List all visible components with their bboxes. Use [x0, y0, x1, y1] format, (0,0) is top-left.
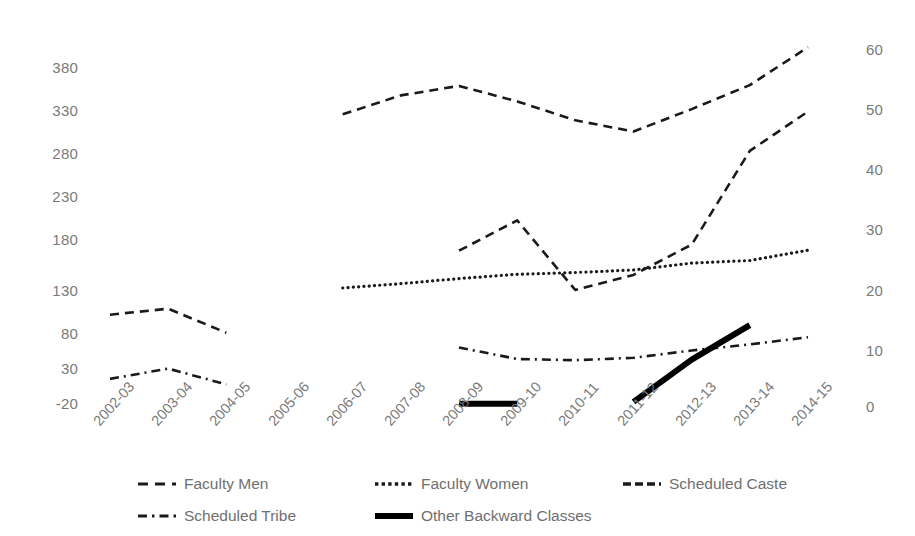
y-left-tick-230: 230	[18, 188, 78, 205]
y-right-tick-20: 20	[866, 282, 906, 299]
y-left-tick-neg20: -20	[18, 395, 78, 412]
solid-thick-line-icon	[373, 509, 415, 523]
legend-item-faculty-women[interactable]: Faculty Women	[373, 472, 621, 496]
y-right-tick-40: 40	[866, 161, 906, 178]
chart-container: 380 330 280 230 180 130 80 30 -20 60 50 …	[0, 0, 915, 536]
series-line-scheduled-caste	[459, 112, 808, 291]
legend-item-other-backward-classes[interactable]: Other Backward Classes	[373, 504, 673, 528]
dashed-line-icon	[136, 477, 178, 491]
y-right-tick-50: 50	[866, 101, 906, 118]
legend-row-1: Faculty Men Faculty Women Scheduled Cast…	[0, 472, 915, 502]
legend-label: Faculty Women	[421, 475, 528, 493]
legend-label: Faculty Men	[184, 475, 268, 493]
plot-area: 380 330 280 230 180 130 80 30 -20 60 50 …	[0, 0, 915, 470]
dashed-line-icon	[621, 477, 663, 491]
legend-label: Other Backward Classes	[421, 507, 592, 525]
legend-item-faculty-men[interactable]: Faculty Men	[136, 472, 373, 496]
y-left-tick-380: 380	[18, 59, 78, 76]
chart-legend: Faculty Men Faculty Women Scheduled Cast…	[0, 466, 915, 536]
legend-label: Scheduled Tribe	[184, 507, 296, 525]
series-line-faculty-men	[343, 47, 808, 131]
legend-row-2: Scheduled Tribe Other Backward Classes	[0, 504, 915, 534]
series-line-scheduled-tribe	[459, 337, 808, 360]
legend-label: Scheduled Caste	[669, 475, 787, 493]
y-left-tick-30: 30	[18, 360, 78, 377]
y-left-tick-330: 330	[18, 102, 78, 119]
legend-item-scheduled-tribe[interactable]: Scheduled Tribe	[136, 504, 373, 528]
series-line-faculty-women	[343, 250, 808, 288]
series-line-faculty-men	[110, 309, 226, 333]
dash-dot-line-icon	[136, 509, 178, 523]
dotted-line-icon	[373, 477, 415, 491]
y-right-tick-60: 60	[866, 41, 906, 58]
y-right-tick-0: 0	[866, 398, 906, 415]
y-left-tick-280: 280	[18, 145, 78, 162]
y-right-tick-30: 30	[866, 221, 906, 238]
y-left-tick-180: 180	[18, 231, 78, 248]
y-right-tick-10: 10	[866, 342, 906, 359]
legend-item-scheduled-caste[interactable]: Scheduled Caste	[621, 472, 841, 496]
y-left-tick-130: 130	[18, 282, 78, 299]
y-left-tick-80: 80	[18, 325, 78, 342]
